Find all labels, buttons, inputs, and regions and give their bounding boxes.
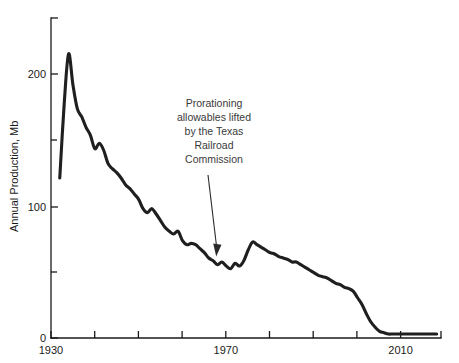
y-tick-label-0: 0 [40, 332, 46, 344]
annotation-line-1: Prorationing [186, 97, 243, 109]
y-axis-title: Annual Production, Mb [8, 121, 20, 232]
annotation-line-2: allowables lifted [177, 111, 251, 123]
annotation-line-4: Railroad [194, 139, 233, 151]
line-chart-svg: 0 100 200 1930 1970 2010 Annual Producti… [0, 0, 459, 363]
annotation-prorationing: Prorationing allowables lifted by the Te… [177, 97, 251, 165]
annotation-line-3: by the Texas [185, 125, 244, 137]
x-tick-label-1930: 1930 [39, 344, 63, 356]
y-axis-minor-ticks [51, 140, 57, 272]
chart-figure: 0 100 200 1930 1970 2010 Annual Producti… [0, 0, 459, 363]
x-tick-label-1970: 1970 [214, 344, 238, 356]
x-tick-label-2010: 2010 [388, 344, 412, 356]
y-tick-label-100: 100 [28, 201, 46, 213]
annotation-line-5: Commission [185, 153, 243, 165]
y-tick-label-200: 200 [28, 68, 46, 80]
series-line-annual-production [60, 54, 437, 334]
annotation-arrow [208, 175, 222, 257]
x-axis-ticks [51, 331, 401, 338]
y-axis-major-ticks [51, 74, 58, 338]
